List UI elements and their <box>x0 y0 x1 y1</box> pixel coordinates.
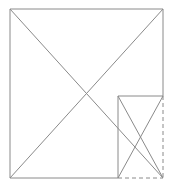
geometry-diagram <box>0 0 172 188</box>
diagram-svg <box>0 0 172 188</box>
